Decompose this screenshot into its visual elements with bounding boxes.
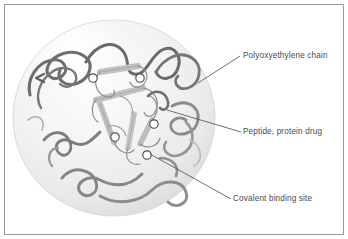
label-polyoxyethylene-chain: Polyoxyethylene chain [243,51,328,60]
diagram-artwork [0,0,348,239]
binding-site-4 [111,133,119,141]
figure-container: Polyoxyethylene chain Peptide, protein d… [0,0,348,239]
label-covalent-binding-site: Covalent binding site [233,194,312,203]
leader-line-polyoxyethylene-chain [198,56,240,83]
binding-site-2 [136,74,144,82]
binding-site-5 [143,151,151,159]
binding-site-1 [89,74,97,82]
label-peptide-protein-drug: Peptide, protein drug [243,127,322,136]
binding-site-3 [150,120,158,128]
